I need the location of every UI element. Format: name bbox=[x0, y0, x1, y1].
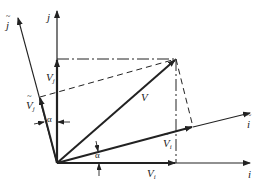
vector-diagram bbox=[0, 0, 266, 187]
label-vj: Vj bbox=[46, 72, 55, 85]
label-j-axis: j bbox=[47, 12, 50, 23]
vector-vj-tilde bbox=[40, 98, 57, 163]
alpha-top-arrow-left bbox=[34, 122, 44, 124]
label-j-tilde-axis: j bbox=[6, 20, 9, 31]
label-i-tilde-axis: i bbox=[247, 119, 250, 130]
label-v: V bbox=[141, 92, 148, 103]
label-vj-tilde: Vj bbox=[26, 100, 35, 113]
projection-vi-tilde bbox=[176, 59, 193, 127]
label-i-axis: i bbox=[248, 169, 251, 180]
i-tilde-axis bbox=[193, 113, 250, 127]
label-vi: Vi bbox=[147, 168, 156, 181]
label-vi-tilde: Vi bbox=[163, 138, 172, 151]
label-alpha-top: α bbox=[47, 115, 52, 124]
label-alpha-bottom: α bbox=[95, 151, 100, 160]
